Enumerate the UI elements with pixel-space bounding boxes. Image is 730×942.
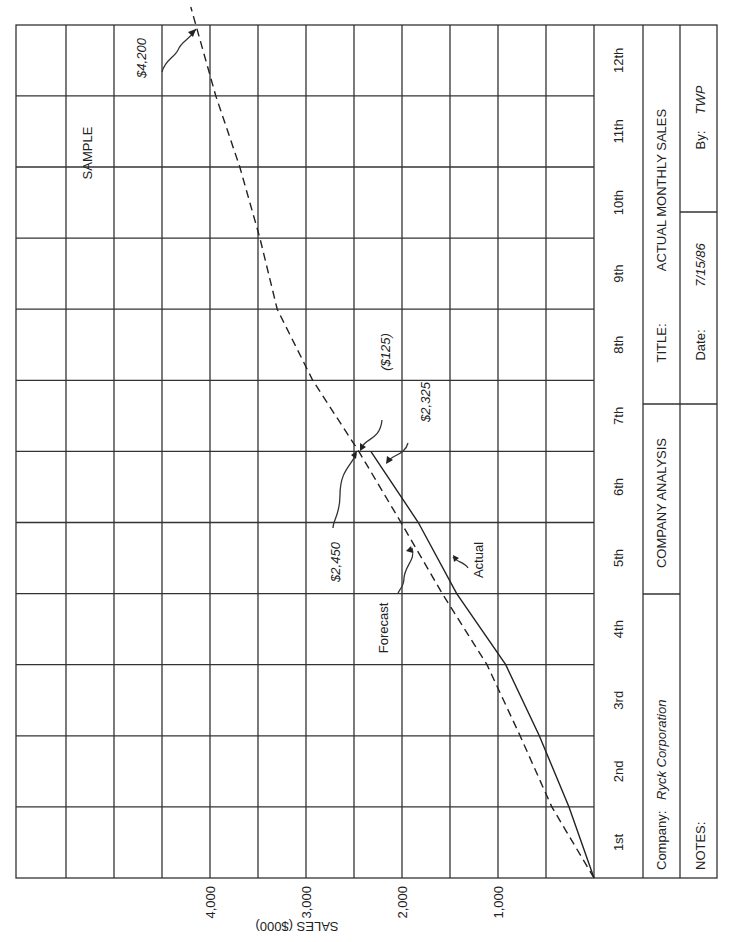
month-label: 6th	[611, 478, 626, 496]
date-value: 7/15/86	[693, 243, 708, 287]
axis-ticks: 1st2nd3rd4th5th6th7th8th9th10th11th12th1…	[203, 48, 626, 919]
month-label: 7th	[611, 407, 626, 425]
title-label: TITLE:	[654, 323, 669, 362]
month-label: 9th	[611, 265, 626, 283]
company-value: Ryck Corporation	[654, 700, 669, 800]
forecast-line	[191, 7, 594, 878]
sales-chart: SAMPLE $4,200 ($125) $2,325 $2,450 Forec…	[0, 0, 730, 942]
month-label: 12th	[611, 48, 626, 73]
variance-annotation: ($125)	[378, 333, 393, 371]
month-label: 5th	[611, 549, 626, 567]
center-label: COMPANY ANALYSIS	[654, 438, 669, 568]
company-label: Company:	[654, 811, 669, 870]
value-tick-label: 4,000	[203, 886, 218, 919]
month-label: 3rd	[611, 691, 626, 710]
month-label: 10th	[611, 190, 626, 215]
actual-value-annotation: $2,325	[418, 381, 433, 423]
chart-series	[191, 7, 594, 878]
info-block: Company: Ryck Corporation COMPANY ANALYS…	[654, 85, 708, 870]
month-label: 11th	[611, 119, 626, 143]
y-axis-title: SALES ($000)	[255, 919, 338, 934]
value-tick-label: 3,000	[299, 886, 314, 919]
forecast-series-label: Forecast	[376, 602, 391, 653]
value-tick-label: 1,000	[491, 886, 506, 919]
value-tick-label: 2,000	[395, 886, 410, 919]
month-label: 1st	[611, 833, 626, 851]
chart-texts: SAMPLE $4,200 ($125) $2,325 $2,450 Forec…	[80, 37, 486, 934]
annotation-arrows	[162, 29, 468, 594]
date-label: Date:	[693, 329, 708, 360]
by-label: By:	[693, 131, 708, 150]
final-value-annotation: $4,200	[134, 37, 149, 79]
month-label: 8th	[611, 336, 626, 354]
actual-series-label: Actual	[471, 542, 486, 578]
forecast-value-annotation: $2,450	[328, 541, 343, 583]
notes-label: NOTES:	[693, 822, 708, 870]
chart-grid	[16, 25, 717, 878]
month-label: 4th	[611, 620, 626, 638]
title-value: ACTUAL MONTHLY SALES	[654, 109, 669, 272]
sample-label: SAMPLE	[80, 126, 95, 179]
by-value: TWP	[693, 85, 708, 114]
month-label: 2nd	[611, 760, 626, 782]
